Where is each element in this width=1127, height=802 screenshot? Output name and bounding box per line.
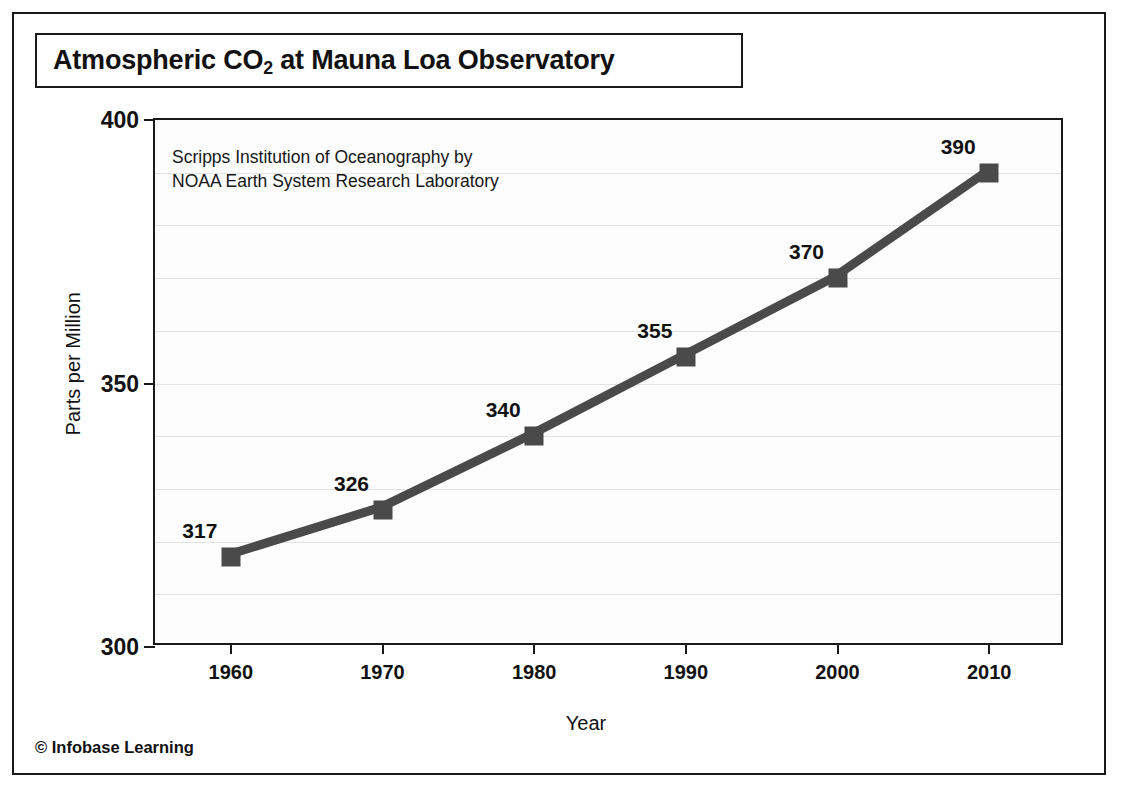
gridline bbox=[155, 384, 1061, 385]
data-point-label: 390 bbox=[941, 135, 976, 159]
data-point-marker[interactable] bbox=[525, 427, 544, 446]
data-line bbox=[231, 172, 986, 554]
gridline bbox=[155, 542, 1061, 543]
x-tick-label: 1990 bbox=[664, 661, 709, 684]
data-point-marker[interactable] bbox=[828, 269, 847, 288]
title-subscript: 2 bbox=[263, 58, 273, 78]
y-axis-title: Parts per Million bbox=[62, 292, 85, 435]
gridline bbox=[155, 594, 1061, 595]
x-tick-label: 1970 bbox=[360, 661, 405, 684]
page-title: Atmospheric CO2 at Mauna Loa Observatory bbox=[53, 45, 615, 76]
gridline bbox=[155, 278, 1061, 279]
chart-figure: Atmospheric CO2 at Mauna Loa Observatory… bbox=[0, 0, 1127, 802]
x-tick-mark bbox=[533, 643, 535, 654]
source-annotation: Scripps Institution of Oceanography by N… bbox=[172, 146, 499, 193]
x-tick-mark bbox=[988, 643, 990, 654]
y-tick-mark bbox=[144, 119, 155, 121]
y-tick-mark bbox=[144, 646, 155, 648]
data-point-marker[interactable] bbox=[980, 163, 999, 182]
data-point-label: 355 bbox=[637, 319, 672, 343]
gridline bbox=[155, 225, 1061, 226]
x-tick-mark bbox=[685, 643, 687, 654]
gridline bbox=[155, 489, 1061, 490]
x-axis-title-wrap: Year bbox=[0, 712, 1127, 735]
y-tick-label: 350 bbox=[101, 370, 139, 397]
x-tick-mark bbox=[837, 643, 839, 654]
plot-area: Scripps Institution of Oceanography by N… bbox=[153, 118, 1063, 645]
plot-inner: Scripps Institution of Oceanography by N… bbox=[155, 120, 1061, 643]
x-tick-label: 1960 bbox=[209, 661, 254, 684]
gridline bbox=[155, 331, 1061, 332]
x-axis-title: Year bbox=[566, 712, 606, 735]
title-box: Atmospheric CO2 at Mauna Loa Observatory bbox=[35, 33, 743, 88]
y-tick-label: 300 bbox=[101, 634, 139, 661]
gridline bbox=[155, 436, 1061, 437]
data-point-marker[interactable] bbox=[373, 500, 392, 519]
title-tail-text: at Mauna Loa Observatory bbox=[273, 45, 615, 75]
data-point-label: 370 bbox=[789, 240, 824, 264]
data-point-label: 340 bbox=[486, 398, 521, 422]
data-point-marker[interactable] bbox=[221, 548, 240, 567]
x-tick-mark bbox=[382, 643, 384, 654]
data-point-marker[interactable] bbox=[676, 348, 695, 367]
y-tick-mark bbox=[144, 383, 155, 385]
data-point-label: 317 bbox=[182, 519, 217, 543]
x-tick-mark bbox=[230, 643, 232, 654]
copyright-credit: © Infobase Learning bbox=[35, 738, 194, 757]
y-tick-label: 400 bbox=[101, 107, 139, 134]
data-point-label: 326 bbox=[334, 472, 369, 496]
title-main-text: Atmospheric CO bbox=[53, 45, 263, 75]
x-tick-label: 2000 bbox=[815, 661, 860, 684]
x-tick-label: 1980 bbox=[512, 661, 557, 684]
series-line bbox=[155, 120, 1061, 643]
x-tick-label: 2010 bbox=[967, 661, 1012, 684]
